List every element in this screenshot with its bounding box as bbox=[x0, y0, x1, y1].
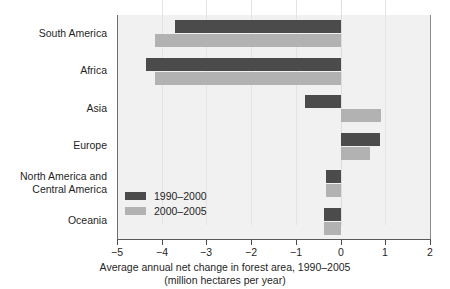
bar bbox=[341, 133, 380, 146]
y-axis-label-asia: Asia bbox=[0, 102, 112, 115]
y-axis-line bbox=[117, 15, 118, 240]
bar bbox=[326, 184, 341, 197]
y-axis-label-africa: Africa bbox=[0, 64, 112, 77]
x-tick--4 bbox=[162, 240, 163, 245]
y-axis-label-europe: Europe bbox=[0, 139, 112, 152]
y-axis-label-line: Asia bbox=[0, 102, 107, 115]
x-tick-label-2: 2 bbox=[415, 246, 445, 258]
x-axis-line bbox=[117, 239, 431, 240]
bar bbox=[341, 109, 381, 122]
y-axis-label-line: North America and bbox=[0, 170, 107, 183]
y-axis-label-line: South America bbox=[0, 27, 107, 40]
x-tick-label--4: −4 bbox=[147, 246, 177, 258]
x-tick--5 bbox=[117, 240, 118, 245]
gridline-1 bbox=[385, 0, 386, 225]
bar bbox=[155, 34, 340, 47]
y-axis-label-line: Africa bbox=[0, 64, 107, 77]
bar bbox=[341, 147, 371, 160]
bar bbox=[175, 20, 341, 33]
x-tick-label--5: −5 bbox=[102, 246, 132, 258]
x-tick-label--3: −3 bbox=[191, 246, 221, 258]
y-axis-label-oceania: Oceania bbox=[0, 214, 112, 227]
y-axis-label-north-america-and: North America andCentral America bbox=[0, 170, 112, 195]
legend-label-1990-2000: 1990–2000 bbox=[154, 190, 207, 202]
y-axis-label-line: Central America bbox=[0, 183, 107, 196]
x-tick-label-1: 1 bbox=[370, 246, 400, 258]
x-axis-title-line2: (million hectares per year) bbox=[0, 274, 450, 287]
x-tick-label--2: −2 bbox=[236, 246, 266, 258]
x-tick-1 bbox=[385, 240, 386, 245]
x-axis-title: Average annual net change in forest area… bbox=[0, 261, 450, 287]
x-tick--1 bbox=[296, 240, 297, 245]
bar bbox=[326, 170, 341, 183]
forest-area-change-chart: South AmericaAfricaAsiaEuropeNorth Ameri… bbox=[0, 0, 450, 289]
plot-right-border bbox=[430, 15, 431, 240]
bar bbox=[305, 95, 340, 108]
y-axis-label-line: Oceania bbox=[0, 214, 107, 227]
legend-swatch-1990-2000 bbox=[125, 192, 146, 200]
x-axis-title-line1: Average annual net change in forest area… bbox=[100, 261, 351, 273]
y-axis-label-south-america: South America bbox=[0, 27, 112, 40]
x-tick--3 bbox=[206, 240, 207, 245]
y-axis-label-line: Europe bbox=[0, 139, 107, 152]
bar bbox=[324, 208, 341, 221]
bar bbox=[155, 72, 341, 85]
x-tick-label--1: −1 bbox=[281, 246, 311, 258]
legend-label-2000-2005: 2000–2005 bbox=[154, 205, 207, 217]
x-tick-label-0: 0 bbox=[326, 246, 356, 258]
bar bbox=[324, 222, 340, 235]
x-tick--2 bbox=[251, 240, 252, 245]
legend-swatch-2000-2005 bbox=[125, 207, 146, 215]
x-tick-2 bbox=[430, 240, 431, 245]
x-tick-0 bbox=[341, 240, 342, 245]
bar bbox=[146, 58, 341, 71]
